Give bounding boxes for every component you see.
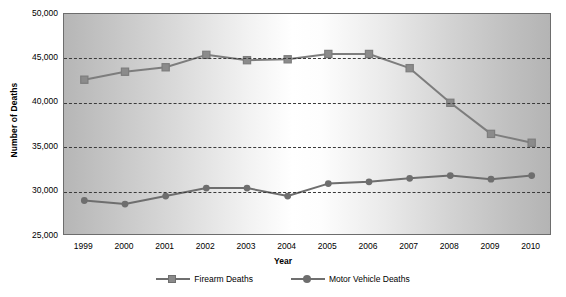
x-tick-label: 2001 xyxy=(142,241,188,251)
circle-marker-icon xyxy=(162,193,169,200)
plot-area xyxy=(63,13,551,235)
square-marker-icon xyxy=(168,275,176,283)
square-marker-icon xyxy=(487,130,494,137)
square-marker-icon xyxy=(81,76,88,83)
y-tick-label: 50,000 xyxy=(0,9,58,18)
square-marker-icon xyxy=(162,64,169,71)
circle-marker-icon xyxy=(447,172,454,179)
legend-item[interactable]: Firearm Deaths xyxy=(156,273,253,285)
x-tick-label: 2004 xyxy=(264,241,310,251)
series-motor-vehicle xyxy=(81,172,535,207)
y-tick-label: 25,000 xyxy=(0,231,58,240)
line-chart: Number of Deaths 50,00045,00040,00035,00… xyxy=(0,0,566,297)
x-tick-label: 2007 xyxy=(386,241,432,251)
circle-marker-icon xyxy=(303,275,311,283)
gridline xyxy=(64,58,550,59)
circle-marker-icon xyxy=(81,197,88,204)
x-tick-label: 2000 xyxy=(101,241,147,251)
x-tick-label: 2010 xyxy=(508,241,554,251)
x-axis-tick-labels: 1999200020012002200320042005200620072008… xyxy=(63,241,551,255)
gridline xyxy=(64,192,550,193)
series-line xyxy=(84,54,531,143)
x-tick-label: 2005 xyxy=(304,241,350,251)
legend-label: Motor Vehicle Deaths xyxy=(329,274,410,284)
circle-marker-icon xyxy=(325,180,332,187)
square-marker-icon xyxy=(121,68,128,75)
circle-marker-icon xyxy=(366,178,373,185)
circle-marker-icon xyxy=(203,185,210,192)
circle-marker-icon xyxy=(244,185,251,192)
x-tick-label: 2002 xyxy=(182,241,228,251)
x-tick-label: 2008 xyxy=(426,241,472,251)
x-axis-title: Year xyxy=(0,256,566,266)
square-marker-icon xyxy=(325,50,332,57)
circle-marker-icon xyxy=(291,273,325,285)
chart-legend: Firearm DeathsMotor Vehicle Deaths xyxy=(0,273,566,285)
legend-label: Firearm Deaths xyxy=(194,274,253,284)
circle-marker-icon xyxy=(528,172,535,179)
y-tick-label: 45,000 xyxy=(0,53,58,62)
x-tick-label: 1999 xyxy=(60,241,106,251)
square-marker-icon xyxy=(365,50,372,57)
plot-series-layer xyxy=(64,14,551,235)
circle-marker-icon xyxy=(488,176,495,183)
gridline xyxy=(64,103,550,104)
square-marker-icon xyxy=(203,51,210,58)
y-tick-label: 35,000 xyxy=(0,142,58,151)
square-marker-icon xyxy=(406,65,413,72)
series-firearm xyxy=(81,50,536,146)
legend-item[interactable]: Motor Vehicle Deaths xyxy=(291,273,410,285)
square-marker-icon xyxy=(156,273,190,285)
series-line xyxy=(84,176,531,204)
circle-marker-icon xyxy=(284,193,291,200)
y-tick-label: 30,000 xyxy=(0,186,58,195)
y-tick-label: 40,000 xyxy=(0,97,58,106)
x-tick-label: 2003 xyxy=(223,241,269,251)
y-axis-tick-labels: 50,00045,00040,00035,00030,00025,000 xyxy=(0,0,58,297)
gridline xyxy=(64,147,550,148)
circle-marker-icon xyxy=(406,175,413,182)
circle-marker-icon xyxy=(122,201,129,208)
square-marker-icon xyxy=(528,139,535,146)
x-tick-label: 2009 xyxy=(467,241,513,251)
x-tick-label: 2006 xyxy=(345,241,391,251)
